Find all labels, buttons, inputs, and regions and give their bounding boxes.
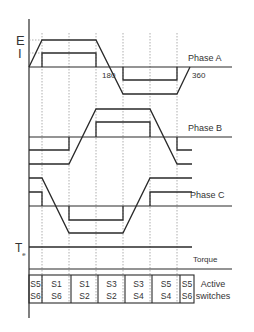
angle-label-360: 360: [192, 71, 206, 80]
switch-cell: S1S6: [42, 275, 62, 303]
bldc-waveform-diagram: E I Phase A 180 360 Phase B Phase C Te T…: [0, 0, 254, 332]
phase-b-current-neg: [29, 137, 69, 150]
phase-b: Phase B: [29, 109, 232, 164]
phase-b-current-neg-2: [177, 137, 192, 150]
switch-bottom: S2: [106, 291, 117, 301]
switch-cell: S3S4: [125, 275, 144, 303]
active-switches-label-2: switches: [196, 291, 231, 301]
torque: Te Torque: [15, 241, 232, 269]
torque-label: Torque: [193, 255, 218, 264]
phase-c-current-2: [150, 192, 192, 206]
switch-bottom: S6: [182, 291, 193, 301]
phase-a-label: Phase A: [188, 53, 222, 63]
switch-top: S3: [133, 279, 144, 289]
switch-cell: S5S6: [30, 279, 41, 301]
switch-top: S1: [79, 279, 90, 289]
current-axis-label: I: [18, 46, 22, 61]
active-switches-label-1: Active: [201, 279, 226, 289]
switch-bottom: S4: [133, 291, 144, 301]
angle-label-180: 180: [102, 71, 116, 80]
switch-cell: S3S2: [98, 275, 117, 303]
switch-bottom: S2: [79, 291, 90, 301]
switch-top: S5: [161, 279, 172, 289]
switch-bottom: S6: [30, 291, 41, 301]
switch-top: S1: [51, 279, 62, 289]
switch-bottom: S6: [51, 291, 62, 301]
switch-top: S5: [182, 279, 193, 289]
switch-bottom: S4: [161, 291, 172, 301]
switch-cell: S5S6: [180, 275, 192, 303]
switch-top: S5: [30, 279, 41, 289]
switch-cell: S5S4: [152, 275, 171, 303]
switch-table: S5S6S1S6S1S2S3S2S3S4S5S4S5S6: [29, 275, 194, 303]
phase-c-current: [29, 192, 42, 206]
switch-top: S3: [106, 279, 117, 289]
phase-c: Phase C: [29, 178, 232, 233]
switch-cell: S1S2: [71, 275, 90, 303]
phase-c-label: Phase C: [190, 190, 225, 200]
torque-axis-label: Te: [15, 241, 26, 257]
phase-b-label: Phase B: [188, 123, 222, 133]
phase-a: Phase A 180 360: [29, 40, 232, 94]
